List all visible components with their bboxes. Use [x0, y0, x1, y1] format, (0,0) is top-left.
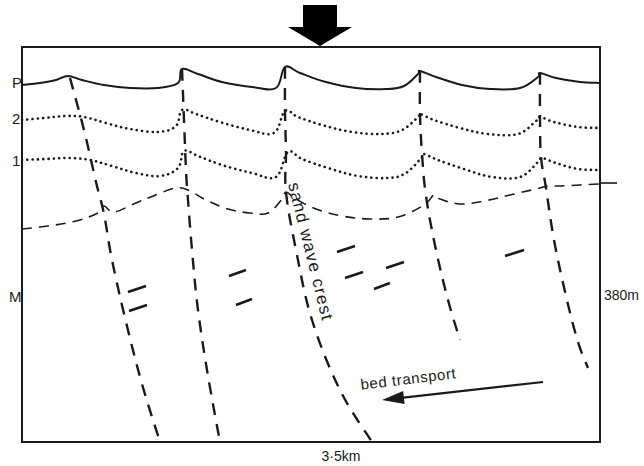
- axis-label-1: 1: [12, 152, 20, 169]
- axis-label-2: 2: [12, 110, 20, 127]
- seismic-section-figure: P21M 380m 3·5km sand wave crest bed tran…: [0, 0, 644, 466]
- depth-label-depth: 380m: [604, 287, 639, 303]
- axis-label-M: M: [9, 288, 22, 305]
- figure-background: [0, 0, 644, 466]
- right-axis-labels: 380m: [604, 287, 639, 303]
- scale-label-scale: 3·5km: [322, 448, 361, 464]
- axis-label-P: P: [12, 74, 22, 91]
- diagram-canvas: P21M 380m 3·5km sand wave crest bed tran…: [0, 0, 644, 466]
- bottom-axis-labels: 3·5km: [322, 448, 361, 464]
